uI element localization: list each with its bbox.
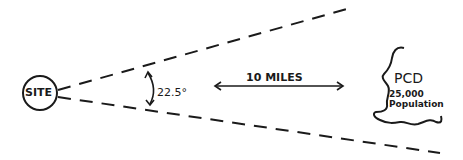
lower-sector-boundary bbox=[58, 97, 440, 153]
angle-arc-arrow bbox=[145, 72, 154, 105]
site-label: SITE bbox=[25, 86, 52, 99]
distance-label: 10 MILES bbox=[246, 71, 303, 84]
population-value: 25,000 bbox=[389, 89, 424, 99]
upper-sector-boundary bbox=[58, 7, 354, 90]
population-center-name: PCD bbox=[394, 70, 423, 86]
angle-label: 22.5° bbox=[157, 86, 187, 99]
population-center-boundary bbox=[374, 48, 442, 125]
population-label: Population bbox=[389, 99, 444, 109]
